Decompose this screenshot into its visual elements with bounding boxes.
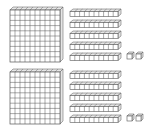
group-2	[10, 69, 143, 124]
ten-rod	[70, 82, 121, 90]
ten-rod	[70, 31, 121, 39]
unit-cube	[136, 114, 143, 121]
hundred-flat	[10, 7, 63, 62]
hundred-flat	[10, 69, 63, 124]
ten-rod	[70, 53, 121, 61]
group-1	[10, 7, 143, 62]
ten-rod	[70, 20, 121, 28]
ten-rod	[70, 71, 121, 79]
unit-cube	[127, 114, 134, 121]
unit-cube	[136, 52, 143, 59]
blocks-canvas	[0, 0, 158, 129]
ten-rod	[70, 42, 121, 50]
ten-rod	[70, 115, 121, 123]
ten-rod	[70, 9, 121, 17]
ten-rod	[70, 93, 121, 101]
unit-cube	[127, 52, 134, 59]
ten-rod	[70, 104, 121, 112]
